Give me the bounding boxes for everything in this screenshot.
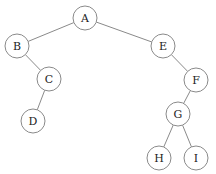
- node-label: C: [45, 73, 53, 86]
- node-label: E: [159, 40, 167, 53]
- edge-g-i: [183, 125, 192, 147]
- tree-node-i: I: [184, 146, 208, 170]
- node-label: F: [192, 74, 200, 87]
- tree-node-h: H: [147, 146, 171, 170]
- tree-canvas: ABCDEFGHI: [0, 0, 216, 174]
- tree-diagram: ABCDEFGHI: [0, 0, 216, 174]
- node-label: G: [174, 108, 183, 121]
- node-label: B: [13, 40, 21, 53]
- node-layer: ABCDEFGHI: [5, 6, 208, 170]
- edge-b-c: [25, 55, 40, 71]
- edge-a-b: [28, 23, 74, 42]
- node-label: H: [154, 152, 164, 165]
- tree-node-b: B: [5, 34, 29, 58]
- tree-node-c: C: [37, 67, 61, 91]
- node-label: D: [29, 115, 38, 128]
- tree-node-f: F: [184, 68, 208, 92]
- node-label: A: [80, 12, 90, 25]
- edge-f-g: [184, 91, 191, 104]
- tree-node-e: E: [151, 34, 175, 58]
- edge-g-h: [164, 125, 173, 147]
- edge-c-d: [37, 90, 44, 110]
- tree-node-a: A: [73, 6, 97, 30]
- edge-a-e: [96, 22, 151, 42]
- tree-node-d: D: [21, 109, 45, 133]
- edge-e-f: [171, 55, 187, 72]
- tree-node-g: G: [166, 102, 190, 126]
- node-label: I: [194, 152, 198, 165]
